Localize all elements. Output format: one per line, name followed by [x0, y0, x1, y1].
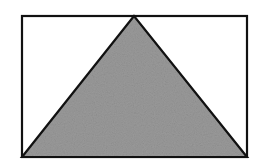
diagram-canvas	[0, 0, 256, 161]
